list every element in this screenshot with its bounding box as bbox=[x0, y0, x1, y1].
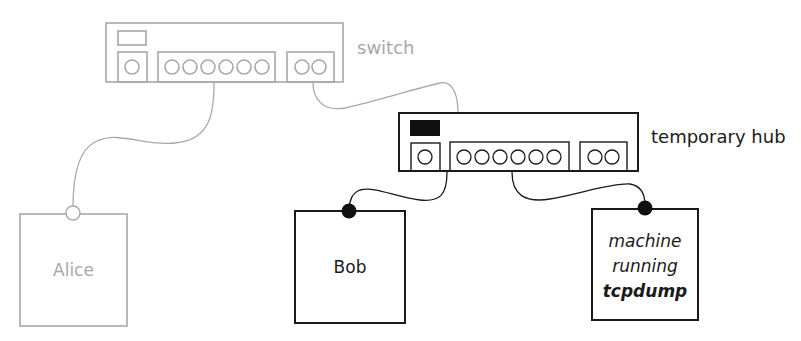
sniffer-label-line1: machine bbox=[608, 229, 681, 254]
cable-hub-to-sniffer bbox=[512, 172, 645, 205]
sniffer-label-container: machine running tcpdump bbox=[592, 209, 698, 320]
alice-label: Alice bbox=[53, 260, 94, 280]
cable-hub-to-bob bbox=[349, 172, 447, 208]
switch-extra-port-group bbox=[287, 52, 334, 82]
bob-label: Bob bbox=[334, 257, 367, 277]
hub-device bbox=[399, 113, 638, 171]
switch-main-port-group bbox=[158, 52, 275, 82]
bob-label-container: Bob bbox=[295, 211, 405, 323]
alice-label-container: Alice bbox=[20, 214, 127, 326]
hub-status-indicator bbox=[410, 120, 440, 136]
cable-switch-to-hub bbox=[313, 83, 458, 113]
hub-main-port-group bbox=[450, 142, 569, 171]
cable-switch-to-alice bbox=[73, 83, 214, 207]
hub-uplink-port-group bbox=[411, 143, 440, 171]
switch-label: switch bbox=[357, 37, 414, 58]
hub-extra-port-group bbox=[580, 142, 627, 171]
hub-label: temporary hub bbox=[651, 126, 786, 147]
switch-uplink-port-group bbox=[118, 52, 147, 82]
switch-device bbox=[106, 23, 343, 82]
sniffer-label-line3: tcpdump bbox=[603, 279, 688, 304]
sniffer-label-line2: running bbox=[612, 254, 678, 279]
switch-status-indicator bbox=[118, 31, 146, 45]
